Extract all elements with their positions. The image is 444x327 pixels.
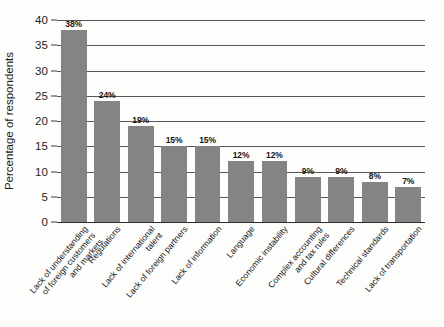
bar-value-label: 8%	[369, 171, 381, 181]
y-axis-title-text: Percentage of respondents	[3, 52, 15, 190]
bar: 15%	[195, 146, 221, 222]
y-tick-label-35: 35	[35, 39, 48, 51]
y-axis-title: Percentage of respondents	[2, 20, 16, 222]
x-axis-label-line: Lack of transportation	[363, 224, 424, 294]
gridline-0	[57, 222, 425, 223]
bar-value-label: 19%	[132, 115, 149, 125]
bar-chart-figure: Percentage of respondents 05101520253035…	[0, 0, 444, 327]
x-axis-label-line: Language	[224, 224, 256, 260]
bar-value-label: 24%	[99, 90, 116, 100]
x-axis-label: Lack of understandingof foreign customer…	[27, 224, 105, 308]
bar: 7%	[395, 187, 421, 222]
y-tick-label-15: 15	[35, 140, 48, 152]
bar: 9%	[328, 177, 354, 222]
bar: 19%	[128, 126, 154, 222]
x-axis-label: Lack of transportation	[363, 224, 424, 294]
bar: 15%	[161, 146, 187, 222]
bar: 38%	[61, 30, 87, 222]
x-axis-labels: Lack of understandingof foreign customer…	[57, 224, 425, 327]
bar-value-label: 15%	[199, 135, 216, 145]
bar: 9%	[295, 177, 321, 222]
x-axis-label: Language	[224, 224, 256, 260]
bar-value-label: 38%	[65, 19, 82, 29]
y-tick-label-30: 30	[35, 65, 48, 77]
y-tick-label-40: 40	[35, 14, 48, 26]
bar-value-label: 15%	[166, 135, 183, 145]
bar: 12%	[228, 161, 254, 222]
y-tick-label-0: 0	[42, 216, 49, 228]
y-tick-label-25: 25	[35, 90, 48, 102]
bar-value-label: 9%	[302, 166, 314, 176]
bar: 24%	[94, 101, 120, 222]
y-tick-label-10: 10	[35, 166, 48, 178]
bars-group: 38%24%19%15%15%12%12%9%9%8%7%	[57, 20, 425, 222]
y-tick-label-20: 20	[35, 115, 48, 127]
y-tick-label-5: 5	[42, 191, 49, 203]
bar-value-label: 9%	[335, 166, 347, 176]
plot-area: 0510152025303540 38%24%19%15%15%12%12%9%…	[57, 20, 425, 222]
bar-value-label: 12%	[233, 150, 250, 160]
bar: 8%	[362, 182, 388, 222]
bar-value-label: 7%	[402, 176, 414, 186]
bar-value-label: 12%	[266, 150, 283, 160]
bar: 12%	[262, 161, 288, 222]
